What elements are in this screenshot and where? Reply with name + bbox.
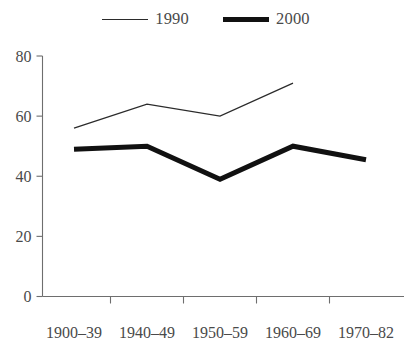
series-line-2000: [74, 146, 366, 179]
x-tick-label-2: 1950–59: [192, 324, 248, 341]
x-tick-labels: 1900–391940–491950–591960–691970–82: [46, 324, 394, 341]
x-tick-label-4: 1970–82: [338, 324, 394, 341]
line-chart: 1990 2000 020406080 1900–391940–491950–5…: [0, 0, 412, 351]
y-tick-label-80: 80: [16, 48, 32, 65]
y-tick-labels: 020406080: [16, 48, 32, 306]
x-tick-label-3: 1960–69: [265, 324, 321, 341]
chart-svg: 020406080 1900–391940–491950–591960–6919…: [0, 0, 412, 351]
x-tick-marks: [111, 297, 330, 304]
series-line-1990: [74, 83, 293, 128]
x-tick-label-1: 1940–49: [119, 324, 175, 341]
y-tick-label-20: 20: [16, 228, 32, 245]
y-tick-label-40: 40: [16, 168, 32, 185]
x-tick-label-0: 1900–39: [46, 324, 102, 341]
y-tick-label-60: 60: [16, 108, 32, 125]
y-tick-marks: [37, 56, 43, 297]
y-tick-label-0: 0: [24, 288, 32, 305]
plot-area: 020406080 1900–391940–491950–591960–6919…: [0, 0, 412, 351]
